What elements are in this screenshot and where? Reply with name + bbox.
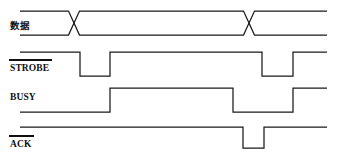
waveform-canvas: 数据STROBEBUSYACK	[0, 0, 341, 159]
waveform-ack	[20, 127, 327, 148]
bus-rail-data-lower	[20, 11, 327, 35]
signal-label-strobe: STROBE	[10, 63, 49, 73]
signal-waveforms-group	[20, 11, 327, 148]
signal-label-ack: ACK	[10, 139, 32, 149]
bus-rail-data-upper	[20, 11, 327, 35]
waveform-strobe	[20, 52, 327, 76]
signal-labels-group: 数据STROBEBUSYACK	[9, 20, 52, 149]
waveform-busy	[20, 88, 327, 112]
signal-label-busy: BUSY	[10, 92, 36, 102]
signal-label-data: 数据	[9, 20, 30, 31]
timing-diagram: 数据STROBEBUSYACK	[0, 0, 341, 159]
